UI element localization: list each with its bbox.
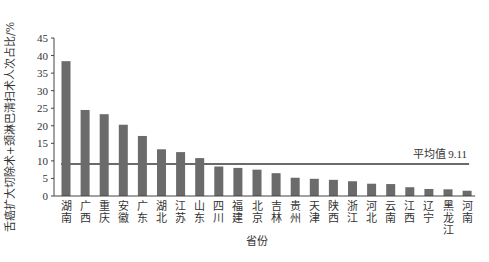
x-category-label: 苏 bbox=[175, 212, 186, 225]
y-axis: 051015202530354045 bbox=[37, 32, 54, 202]
bar bbox=[62, 61, 71, 196]
x-category-label: 建 bbox=[232, 211, 243, 225]
x-category-label: 陕 bbox=[328, 199, 339, 213]
bar bbox=[463, 191, 472, 196]
x-category-label: 重 bbox=[99, 199, 110, 213]
bar bbox=[138, 136, 147, 196]
bar bbox=[119, 125, 128, 196]
x-category-label: 西 bbox=[404, 212, 415, 225]
x-category-label: 安 bbox=[118, 199, 129, 213]
x-category-label: 北 bbox=[156, 212, 167, 225]
x-category-label: 福 bbox=[232, 199, 243, 213]
x-category-label: 京 bbox=[252, 211, 263, 225]
x-category-label: 川 bbox=[213, 212, 224, 225]
bar bbox=[444, 189, 453, 196]
y-tick-label: 25 bbox=[37, 102, 49, 114]
y-tick-label: 45 bbox=[37, 32, 49, 44]
bar bbox=[176, 152, 185, 196]
bar bbox=[348, 181, 357, 196]
x-category-label: 宁 bbox=[423, 211, 434, 225]
y-tick-label: 15 bbox=[37, 137, 49, 149]
bar bbox=[214, 167, 223, 196]
bar bbox=[272, 173, 281, 196]
x-axis-title: 省份 bbox=[246, 235, 268, 248]
y-tick-label: 30 bbox=[37, 85, 49, 97]
bar bbox=[233, 168, 242, 196]
bar bbox=[386, 184, 395, 196]
y-tick-label: 10 bbox=[37, 155, 49, 167]
y-tick-label: 40 bbox=[37, 50, 49, 62]
x-category-label: 南 bbox=[462, 212, 473, 225]
x-category-label: 西 bbox=[328, 212, 339, 225]
x-category-label: 林 bbox=[271, 211, 282, 225]
x-category-label: 东 bbox=[194, 212, 205, 225]
x-category-label: 西 bbox=[80, 212, 91, 225]
y-tick-label: 5 bbox=[43, 172, 49, 184]
bar bbox=[100, 114, 109, 196]
y-tick-label: 20 bbox=[37, 120, 49, 132]
x-category-label: 北 bbox=[366, 212, 377, 225]
bar bbox=[367, 184, 376, 196]
bar bbox=[424, 189, 433, 196]
x-category-label: 徽 bbox=[118, 211, 129, 225]
bar bbox=[253, 170, 262, 196]
x-category-label: 南 bbox=[61, 212, 72, 225]
bars bbox=[62, 61, 472, 196]
bar bbox=[291, 178, 300, 196]
x-category-label: 东 bbox=[137, 212, 148, 225]
x-category-label: 江 bbox=[347, 212, 358, 225]
bar bbox=[310, 179, 319, 196]
x-category-label: 庆 bbox=[99, 211, 110, 225]
average-label: 平均值 9.11 bbox=[413, 148, 468, 160]
x-axis: 湖南广西重庆安徽广东湖北江苏山东四川福建北京吉林贵州天津陕西浙江河北云南江西辽宁… bbox=[54, 196, 475, 237]
y-axis-title: 舌癌扩大切除术+颈淋巴清扫术人次占比/% bbox=[3, 22, 17, 232]
bar-chart: 051015202530354045 平均值 9.11 湖南广西重庆安徽广东湖北… bbox=[0, 0, 489, 262]
y-tick-label: 0 bbox=[43, 190, 49, 202]
x-category-label: 南 bbox=[385, 212, 396, 225]
y-tick-label: 35 bbox=[37, 67, 49, 79]
bar bbox=[81, 110, 90, 196]
x-category-label: 津 bbox=[309, 212, 320, 225]
bar bbox=[405, 187, 414, 196]
bar bbox=[329, 180, 338, 196]
x-category-label: 州 bbox=[290, 212, 301, 225]
bar bbox=[157, 149, 166, 196]
x-category-label: 江 bbox=[443, 224, 454, 237]
